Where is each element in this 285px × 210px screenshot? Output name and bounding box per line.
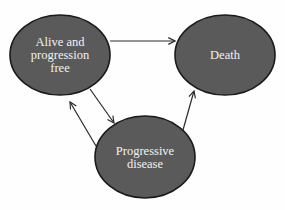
node-label-death: Death <box>177 17 273 93</box>
state-transition-diagram: Alive and progression free Death Progres… <box>0 0 285 210</box>
node-label-alive: Alive and progression free <box>12 17 108 93</box>
edge-progressive-to-alive <box>70 102 96 146</box>
node-label-progressive: Progressive disease <box>97 120 193 196</box>
edge-alive-to-progressive <box>90 89 114 123</box>
